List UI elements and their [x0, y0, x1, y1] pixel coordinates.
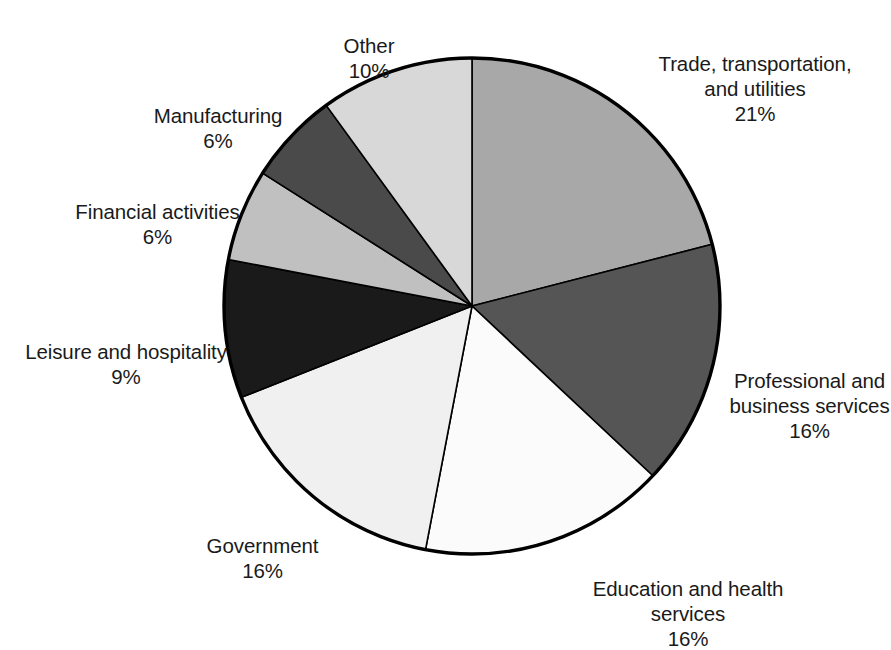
- slice-label-financial-name: Financial activities: [75, 200, 239, 223]
- slice-label-government-name: Government: [207, 534, 319, 557]
- slice-label-education-pct: 16%: [548, 626, 828, 650]
- slice-label-trade: Trade, transportation, and utilities 21%: [625, 26, 885, 151]
- slice-label-other-name: Other: [344, 34, 395, 57]
- slice-label-trade-pct: 21%: [625, 101, 885, 126]
- slice-label-professional: Professional and business services 16%: [728, 343, 891, 468]
- slice-label-manufacturing: Manufacturing 6%: [108, 78, 328, 178]
- slice-label-professional-pct: 16%: [728, 418, 891, 443]
- slice-label-leisure: Leisure and hospitality 9%: [0, 314, 252, 414]
- slice-label-manufacturing-name: Manufacturing: [154, 104, 283, 127]
- slice-label-education-name: Education and health services: [593, 577, 784, 625]
- slice-label-trade-name: Trade, transportation, and utilities: [658, 52, 851, 100]
- slice-label-government-pct: 16%: [150, 558, 375, 583]
- slice-label-professional-name: Professional and business services: [729, 369, 889, 417]
- slice-label-manufacturing-pct: 6%: [108, 128, 328, 153]
- slice-label-leisure-pct: 9%: [0, 364, 252, 389]
- slice-label-government: Government 16%: [150, 508, 375, 608]
- slice-label-education: Education and health services 16%: [548, 551, 828, 650]
- slice-label-leisure-name: Leisure and hospitality: [25, 340, 227, 363]
- slice-label-financial-pct: 6%: [30, 224, 285, 249]
- slice-label-financial: Financial activities 6%: [30, 174, 285, 274]
